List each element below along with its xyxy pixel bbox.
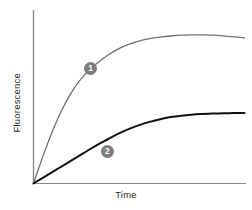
plot-area [0,0,252,210]
curve-2-path [34,113,245,184]
curve-1-badge: 1 [84,62,97,75]
curve-1-path [34,35,245,184]
curve-2-badge: 2 [101,145,114,158]
fluorescence-time-chart: Fluorescence Time 1 2 [0,0,252,210]
x-axis-label: Time [0,190,252,200]
